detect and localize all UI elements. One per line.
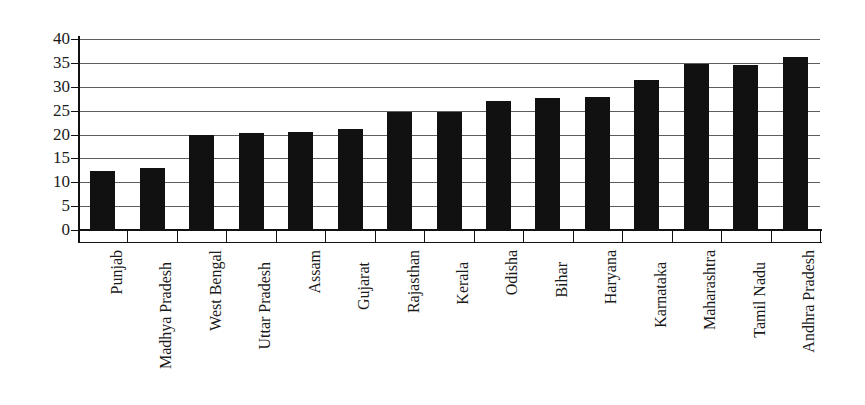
bar [535,98,560,230]
y-axis-tick [71,63,78,64]
x-axis-tick [573,231,574,243]
x-axis-tick [474,231,475,243]
bar [140,168,165,230]
y-axis-tick-label: 0 [62,221,71,238]
bar [486,101,511,230]
x-axis-tick [622,231,623,243]
y-axis-tick-label: 10 [53,173,70,190]
x-axis-tick [325,231,326,243]
y-axis-labels: 0510152025303540 [36,39,70,230]
bar [189,135,214,230]
bar-chart: 0510152025303540 PunjabMadhya PradeshWes… [0,0,865,405]
x-axis-category-label: Gujarat [356,262,372,310]
x-axis-category-label: Andhra Pradesh [801,250,817,353]
y-axis-tick [71,230,78,231]
x-axis-tick [820,231,821,243]
plot-area [78,39,820,230]
y-axis-tick [71,182,78,183]
y-axis-tick [71,87,78,88]
x-axis-tick [177,231,178,243]
x-axis-line [78,229,822,231]
x-axis-category-label: Kerala [455,262,471,305]
x-axis-category-label: Tamil Nadu [752,262,768,338]
x-axis-tick [226,231,227,243]
x-axis-category-label: West Bengal [208,250,224,331]
x-axis-tick [721,231,722,243]
x-axis-tick [127,231,128,243]
x-axis-category-label: Karnataka [653,262,669,328]
y-axis-tick-label: 40 [53,30,70,47]
x-axis-category-label: Maharashtra [702,250,718,330]
bar [783,57,808,230]
x-axis-category-label: Madhya Pradesh [158,262,174,369]
x-axis-tick-baseline [78,242,822,243]
x-axis-category-label: Odisha [504,250,520,295]
y-axis-tick [71,135,78,136]
y-axis-tick-label: 5 [62,197,71,214]
bar [437,112,462,230]
y-axis-tick [71,39,78,40]
bar [288,132,313,230]
bar [338,129,363,230]
y-axis-tick-label: 30 [53,78,70,95]
y-axis-tick-label: 15 [53,149,70,166]
x-axis-category-label: Punjab [109,250,125,294]
x-axis-tick [78,231,79,243]
bar [585,97,610,230]
y-axis-tick [71,111,78,112]
bar [684,64,709,230]
x-axis-category-label: Haryana [603,250,619,304]
y-axis-tick [71,158,78,159]
x-axis-category-label: Bihar [554,262,570,298]
bar [387,112,412,230]
x-axis-tick [672,231,673,243]
x-axis-tick [375,231,376,243]
x-axis-category-label: Assam [307,250,323,294]
y-axis-tick-label: 20 [53,126,70,143]
y-axis-tick [71,206,78,207]
gridline [78,39,820,40]
x-axis-category-label: Rajasthan [406,250,422,313]
y-axis-line [78,36,80,243]
x-axis-tick [276,231,277,243]
bar [90,171,115,230]
bar [733,65,758,230]
bar [634,80,659,230]
y-axis-tick-label: 25 [53,102,70,119]
x-axis-tick [771,231,772,243]
x-axis-category-label: Uttar Pradesh [257,262,273,350]
bar [239,133,264,230]
y-axis-tick-label: 35 [53,54,70,71]
x-axis-tick [424,231,425,243]
x-axis-tick [523,231,524,243]
